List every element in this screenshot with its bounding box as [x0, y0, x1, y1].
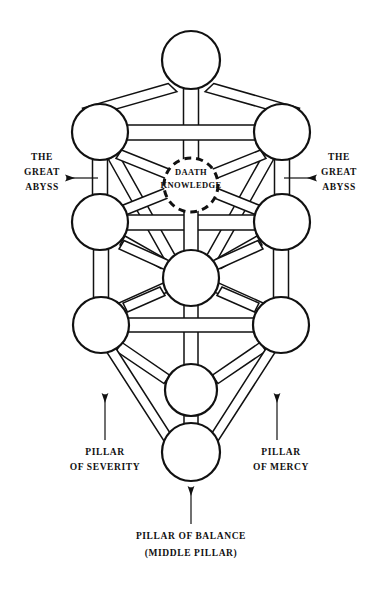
path-chokmah-chesed [275, 160, 290, 195]
path-geburah-hod [94, 250, 109, 298]
sephirah-hod [73, 297, 129, 353]
pillar-of-balance-label: PILLAR OF BALANCE (MIDDLE PILLAR) [86, 528, 296, 562]
daath-label: DAATH KNOWLEDGE [152, 166, 230, 192]
daath-label-line2: KNOWLEDGE [152, 179, 230, 192]
great-abyss-left-label: THE GREAT ABYSS [6, 150, 78, 195]
pillar-of-severity-line2: OF SEVERITY [50, 460, 160, 475]
path-tiphareth-yesod [184, 305, 198, 367]
sephirah-netzach [253, 297, 309, 353]
great-abyss-left-line1: THE [6, 150, 78, 165]
tree-of-life-svg [0, 0, 382, 590]
sephirah-kether [162, 31, 220, 89]
sephirah-malkuth [162, 423, 220, 481]
sephirah-geburah [72, 194, 128, 250]
sephirah-chokmah [254, 104, 310, 160]
pillar-of-severity-line1: PILLAR [50, 445, 160, 460]
sephirah-tiphareth [163, 250, 219, 306]
great-abyss-right-label: THE GREAT ABYSS [303, 150, 375, 195]
path-chesed-netzach [274, 250, 289, 298]
path-tiphareth-hod [123, 287, 165, 312]
sephirah-chesed [254, 194, 310, 250]
great-abyss-right-line1: THE [303, 150, 375, 165]
pillar-of-balance-line2: (MIDDLE PILLAR) [86, 545, 296, 562]
path-binah-geburah [93, 160, 108, 195]
pillar-of-mercy-line2: OF MERCY [226, 460, 336, 475]
path-tiphareth-netzach [217, 287, 259, 312]
great-abyss-left-line3: ABYSS [6, 180, 78, 195]
path-binah-chokmah [126, 125, 256, 140]
great-abyss-right-line3: ABYSS [303, 180, 375, 195]
path-daath-tiphareth [184, 208, 198, 252]
sephirah-yesod [165, 364, 217, 416]
sephirah-binah [72, 104, 128, 160]
tree-of-life-figure: DAATH KNOWLEDGE THE GREAT ABYSS THE GREA… [0, 0, 382, 590]
great-abyss-right-line2: GREAT [303, 165, 375, 180]
pillar-of-mercy-line1: PILLAR [226, 445, 336, 460]
path-hod-netzach [127, 318, 255, 332]
pillar-of-severity-label: PILLAR OF SEVERITY [50, 445, 160, 475]
pillar-of-balance-line1: PILLAR OF BALANCE [86, 528, 296, 545]
pillar-of-mercy-label: PILLAR OF MERCY [226, 445, 336, 475]
daath-label-line1: DAATH [152, 166, 230, 179]
great-abyss-left-line2: GREAT [6, 165, 78, 180]
